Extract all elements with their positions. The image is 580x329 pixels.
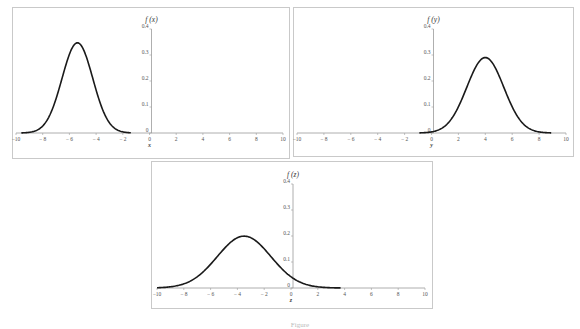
y-tick-label: 0.2: [283, 230, 290, 236]
x-tick-label: − 2: [119, 136, 126, 142]
x-tick-label: 8: [538, 136, 541, 142]
x-tick-label: − 4: [234, 291, 241, 297]
x-tick-label: 10: [422, 291, 428, 297]
x-tick-label: 4: [343, 291, 346, 297]
y-tick-label: 0.3: [283, 204, 290, 210]
x-tick-label: −10: [293, 136, 302, 142]
y-tick-label: 0.2: [142, 75, 149, 81]
x-tick-label: 2: [457, 136, 460, 142]
x-tick-label: − 6: [66, 136, 73, 142]
x-tick-label: −10: [153, 291, 162, 297]
y-tick-label: 0.3: [142, 49, 149, 55]
x-tick-label: − 8: [320, 136, 327, 142]
x-tick-label: − 8: [39, 136, 46, 142]
x-tick-label: 2: [175, 136, 178, 142]
figure-caption: Figure: [250, 321, 350, 329]
density-curve: [157, 236, 341, 288]
x-tick-label: 4: [202, 136, 205, 142]
x-tick-label: − 4: [374, 136, 381, 142]
x-tick-label: 2: [316, 291, 319, 297]
y-tick-label: 0.1: [424, 101, 431, 107]
plot-fx: −10− 8− 6− 4− 2024681000.10.20.30.4f (x)…: [12, 15, 286, 148]
y-axis-label: f (x): [145, 15, 158, 24]
y-tick-label: 0.1: [142, 101, 149, 107]
x-tick-label: −10: [12, 136, 21, 142]
x-tick-label: 6: [228, 136, 231, 142]
y-tick-label: 0.1: [283, 256, 290, 262]
y-tick-label: 0: [287, 282, 290, 288]
y-axis-label: f (y): [427, 15, 440, 24]
x-axis-label: z: [289, 297, 293, 303]
x-tick-label: − 4: [92, 136, 99, 142]
y-tick-label: 0.3: [424, 49, 431, 55]
x-tick-label: − 8: [180, 291, 187, 297]
x-tick-label: − 2: [401, 136, 408, 142]
x-tick-label: − 2: [261, 291, 268, 297]
x-tick-label: 8: [255, 136, 258, 142]
x-tick-label: 4: [484, 136, 487, 142]
x-tick-label: − 6: [207, 291, 214, 297]
x-tick-label: − 6: [347, 136, 354, 142]
x-tick-label: 6: [370, 291, 373, 297]
y-axis-label: f (z): [287, 170, 299, 179]
x-tick-label: 8: [397, 291, 400, 297]
y-tick-label: 0: [146, 127, 149, 133]
x-axis-label: y: [429, 142, 433, 148]
x-tick-label: 10: [563, 136, 569, 142]
y-tick-label: 0.2: [424, 75, 431, 81]
density-curve: [419, 58, 551, 133]
x-tick-label: 10: [280, 136, 286, 142]
plot-fy: −10− 8− 6− 4− 2024681000.10.20.30.4f (y)…: [293, 15, 569, 148]
plot-fz: −10− 8− 6− 4− 2024681000.10.20.30.4f (z)…: [153, 170, 428, 303]
density-curve: [21, 43, 130, 133]
x-tick-label: 6: [511, 136, 514, 142]
charts-canvas: −10− 8− 6− 4− 2024681000.10.20.30.4f (x)…: [0, 0, 580, 329]
x-axis-label: x: [147, 142, 151, 148]
